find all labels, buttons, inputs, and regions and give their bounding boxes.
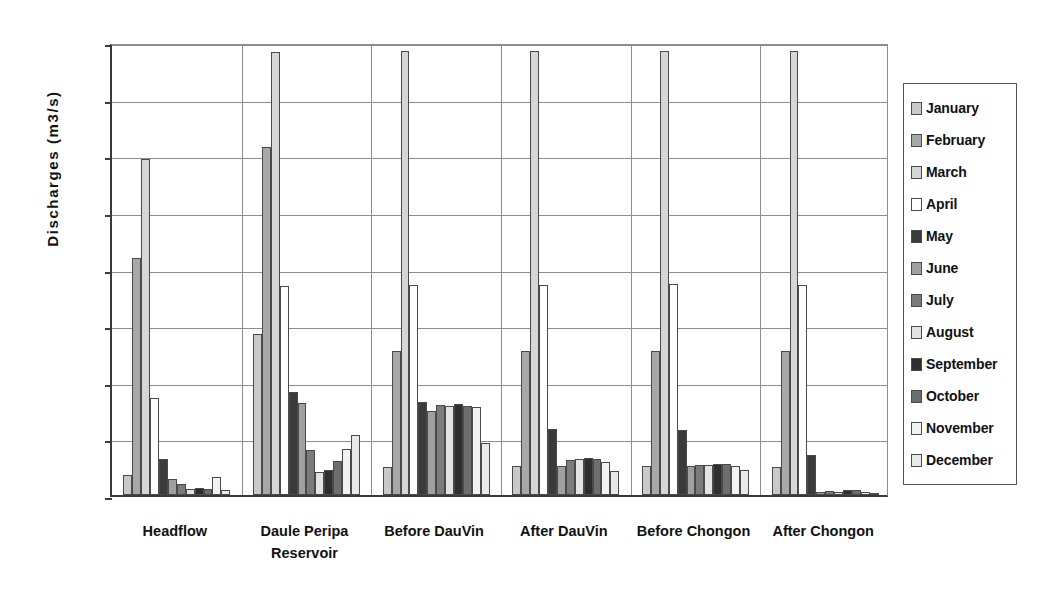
bar-october-2 — [463, 406, 472, 495]
legend-item-october[interactable]: October — [911, 380, 1010, 412]
plot-area: 0100200300400500600700800 — [110, 44, 888, 497]
bar-february-5 — [781, 351, 790, 495]
bar-group — [371, 45, 501, 495]
legend-label: January — [926, 100, 979, 116]
y-axis-tick-mark — [105, 45, 112, 47]
bar-march-5 — [790, 51, 799, 496]
bar-group — [631, 45, 761, 495]
bar-july-3 — [566, 460, 575, 495]
legend-swatch-icon — [911, 166, 922, 179]
bar-january-4 — [642, 466, 651, 495]
y-axis-tick-mark — [105, 385, 112, 387]
bar-group — [242, 45, 372, 495]
bar-may-2 — [418, 402, 427, 495]
bar-december-3 — [610, 471, 619, 495]
legend-swatch-icon — [911, 262, 922, 275]
bar-august-0 — [186, 489, 195, 495]
bar-october-3 — [593, 459, 602, 495]
bar-september-3 — [584, 458, 593, 495]
legend-label: September — [926, 356, 997, 372]
bar-august-1 — [315, 472, 324, 495]
bar-june-3 — [557, 466, 566, 495]
bar-group — [760, 45, 890, 495]
bar-august-4 — [704, 465, 713, 495]
legend-label: March — [926, 164, 967, 180]
bar-november-5 — [861, 492, 870, 495]
legend-item-april[interactable]: April — [911, 188, 1010, 220]
legend-label: May — [926, 228, 953, 244]
bar-august-5 — [834, 492, 843, 495]
bar-march-1 — [271, 52, 280, 495]
legend-label: July — [926, 292, 954, 308]
legend-label: April — [926, 196, 957, 212]
legend-label: November — [926, 420, 994, 436]
bar-december-0 — [221, 490, 230, 495]
legend-item-march[interactable]: March — [911, 156, 1010, 188]
bar-july-2 — [436, 405, 445, 495]
bar-october-1 — [333, 461, 342, 495]
bar-june-0 — [168, 479, 177, 495]
legend-swatch-icon — [911, 102, 922, 115]
bar-november-3 — [601, 462, 610, 495]
bar-december-5 — [870, 493, 879, 495]
legend-item-august[interactable]: August — [911, 316, 1010, 348]
legend-item-february[interactable]: February — [911, 124, 1010, 156]
x-axis-label-2: Before DauVin — [369, 520, 499, 542]
bar-may-4 — [678, 430, 687, 495]
bar-july-0 — [177, 484, 186, 495]
x-axis-label-3: After DauVin — [499, 520, 629, 542]
y-axis-tick-mark — [105, 441, 112, 443]
legend-swatch-icon — [911, 134, 922, 147]
bar-april-3 — [539, 285, 548, 495]
bar-january-3 — [512, 466, 521, 495]
bar-april-1 — [280, 286, 289, 496]
legend-item-september[interactable]: September — [911, 348, 1010, 380]
legend-item-may[interactable]: May — [911, 220, 1010, 252]
bar-april-4 — [669, 284, 678, 495]
legend-swatch-icon — [911, 358, 922, 371]
chart-legend: JanuaryFebruaryMarchAprilMayJuneJulyAugu… — [903, 83, 1017, 485]
legend-swatch-icon — [911, 198, 922, 211]
legend-item-july[interactable]: July — [911, 284, 1010, 316]
y-axis-tick-mark — [105, 272, 112, 274]
legend-item-november[interactable]: November — [911, 412, 1010, 444]
bar-group — [112, 45, 242, 495]
bar-april-0 — [150, 398, 159, 495]
legend-swatch-icon — [911, 230, 922, 243]
y-axis-tick-mark — [105, 158, 112, 160]
legend-swatch-icon — [911, 390, 922, 403]
legend-label: June — [926, 260, 958, 276]
legend-item-june[interactable]: June — [911, 252, 1010, 284]
bar-february-4 — [651, 351, 660, 495]
bar-november-1 — [342, 449, 351, 495]
bar-january-5 — [772, 467, 781, 495]
bar-february-3 — [521, 351, 530, 495]
bar-december-4 — [740, 470, 749, 495]
y-axis-tick-mark — [105, 215, 112, 217]
bar-september-4 — [713, 464, 722, 495]
bar-april-5 — [798, 285, 807, 495]
bar-november-0 — [212, 477, 221, 495]
x-axis-label-1: Daule Peripa Reservoir — [240, 520, 370, 564]
legend-item-january[interactable]: January — [911, 92, 1010, 124]
legend-label: February — [926, 132, 985, 148]
legend-item-december[interactable]: December — [911, 444, 1010, 476]
x-axis-label-0: Headflow — [110, 520, 240, 542]
bar-march-3 — [530, 51, 539, 496]
legend-swatch-icon — [911, 326, 922, 339]
bar-october-4 — [722, 464, 731, 495]
x-axis-label-4: Before Chongon — [629, 520, 759, 542]
bar-may-3 — [548, 429, 557, 495]
y-axis-tick-mark — [105, 328, 112, 330]
bar-august-3 — [575, 459, 584, 495]
legend-swatch-icon — [911, 294, 922, 307]
bar-may-1 — [289, 392, 298, 495]
y-axis-tick-mark — [105, 102, 112, 104]
bar-may-5 — [807, 455, 816, 495]
bar-january-0 — [123, 475, 132, 495]
bar-november-4 — [731, 466, 740, 495]
legend-swatch-icon — [911, 422, 922, 435]
x-axis-category-labels: HeadflowDaule Peripa ReservoirBefore Dau… — [110, 520, 888, 580]
legend-label: August — [926, 324, 974, 340]
bar-september-2 — [454, 404, 463, 495]
